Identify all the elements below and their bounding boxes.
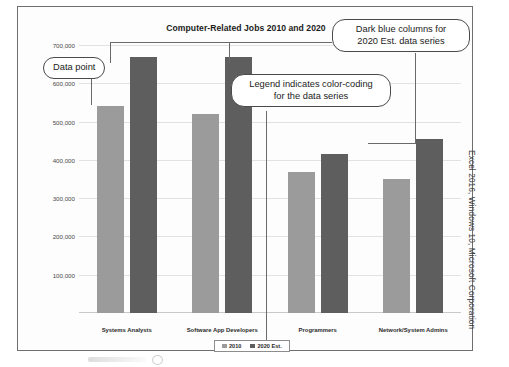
leader-dark-blue-drop-2 bbox=[229, 42, 230, 63]
callout-data-point: Data point bbox=[43, 57, 105, 79]
ytick-700000: 700,000 bbox=[15, 42, 75, 49]
legend-label-2010: 2010 bbox=[229, 343, 241, 349]
ytick-400000: 400,000 bbox=[15, 157, 75, 164]
callout-dark-blue-columns: Dark blue columns for 2020 Est. data ser… bbox=[332, 19, 470, 52]
legend-swatch-2010-icon bbox=[222, 344, 227, 349]
callout-legend-note: Legend indicates color-coding for the da… bbox=[231, 74, 391, 107]
ytick-100000: 100,000 bbox=[15, 272, 75, 279]
bar-2020-programmers[interactable] bbox=[321, 154, 348, 313]
leader-legend-note-drop bbox=[266, 111, 267, 340]
callout-dark-blue-line1: Dark blue columns for bbox=[356, 24, 446, 34]
category-label-3: Network/System Admins bbox=[342, 327, 486, 333]
callout-legend-line2: for the data series bbox=[274, 91, 348, 101]
bar-2010-programmers[interactable] bbox=[288, 172, 315, 313]
leader-dark-blue-horizontal-1 bbox=[110, 42, 230, 43]
bar-2020-systems-analysts[interactable] bbox=[130, 57, 157, 314]
legend-item-2020-est[interactable]: 2020 Est. bbox=[250, 343, 281, 349]
bar-group-systems-analysts: Systems Analysts bbox=[79, 45, 175, 313]
page-smudge-circle bbox=[152, 355, 163, 365]
legend-label-2020-est: 2020 Est. bbox=[257, 343, 281, 349]
ytick-500000: 500,000 bbox=[15, 119, 75, 126]
bar-2010-systems-analysts[interactable] bbox=[97, 106, 124, 313]
legend-item-2010[interactable]: 2010 bbox=[222, 343, 241, 349]
callout-dark-blue-line2: 2020 Est. data series bbox=[357, 36, 444, 46]
leader-dark-blue-horizontal-2 bbox=[229, 42, 332, 43]
bar-2010-software-app-developers[interactable] bbox=[192, 114, 219, 313]
callout-legend-line1: Legend indicates color-coding bbox=[249, 79, 373, 89]
leader-fourth-group-horizontal bbox=[368, 143, 416, 144]
ytick-200000: 200,000 bbox=[15, 233, 75, 240]
bar-2020-network-system-admins[interactable] bbox=[416, 139, 443, 313]
source-caption: Excel 2016, Windows 10, Microsoft Corpor… bbox=[467, 150, 477, 329]
figure-frame: Computer-Related Jobs 2010 and 2020 700,… bbox=[17, 6, 473, 351]
legend-swatch-2020-icon bbox=[250, 344, 255, 349]
ytick-600000: 600,000 bbox=[15, 80, 75, 87]
leader-dark-blue-drop-3 bbox=[415, 53, 416, 143]
bar-2010-network-system-admins[interactable] bbox=[383, 179, 410, 313]
leader-dark-blue-drop-1 bbox=[110, 42, 111, 63]
page-smudge bbox=[88, 357, 146, 362]
chart-legend[interactable]: 2010 2020 Est. bbox=[214, 340, 290, 352]
ytick-300000: 300,000 bbox=[15, 195, 75, 202]
